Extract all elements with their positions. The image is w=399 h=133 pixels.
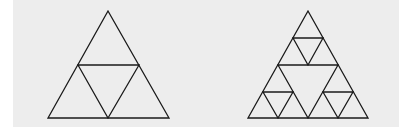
inner-triangle [323, 92, 353, 118]
inner-triangle [293, 38, 323, 65]
iteration-2-triangle [248, 11, 368, 118]
iteration-1-triangle [48, 11, 169, 118]
inner-triangle [263, 92, 293, 118]
inner-triangle [78, 65, 139, 118]
sierpinski-figure [0, 0, 399, 133]
